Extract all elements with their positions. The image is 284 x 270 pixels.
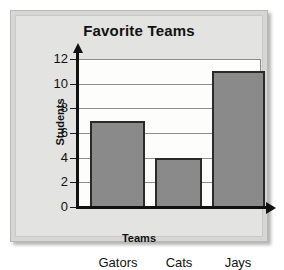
- ytick-label-2: 2: [36, 175, 68, 188]
- gridline-12: [76, 59, 261, 60]
- x-axis-line: [76, 206, 268, 209]
- bar-cats[interactable]: [155, 158, 202, 208]
- ytick-label-10: 10: [36, 77, 68, 90]
- ytick-label-6: 6: [36, 126, 68, 139]
- y-axis-arrow-icon: [73, 43, 83, 53]
- bar-gators[interactable]: [90, 121, 145, 208]
- ytick-label-8: 8: [36, 101, 68, 114]
- chart-title: Favorite Teams: [16, 22, 262, 39]
- x-axis-title: Teams: [16, 232, 262, 244]
- y-axis-line: [76, 51, 79, 208]
- bar-jays[interactable]: [212, 71, 265, 208]
- x-axis-arrow-icon: [266, 202, 276, 214]
- plot-area: 0 2 4 6 8 10 12: [76, 59, 261, 208]
- ytick-label-12: 12: [36, 52, 68, 65]
- ytick-label-4: 4: [36, 151, 68, 164]
- xtick-label-jays: Jays: [202, 255, 274, 270]
- ytick-label-0: 0: [36, 200, 68, 213]
- chart-panel: Favorite Teams Students Teams 0 2 4 6 8 …: [15, 15, 263, 237]
- chart-card: Favorite Teams Students Teams 0 2 4 6 8 …: [10, 10, 268, 242]
